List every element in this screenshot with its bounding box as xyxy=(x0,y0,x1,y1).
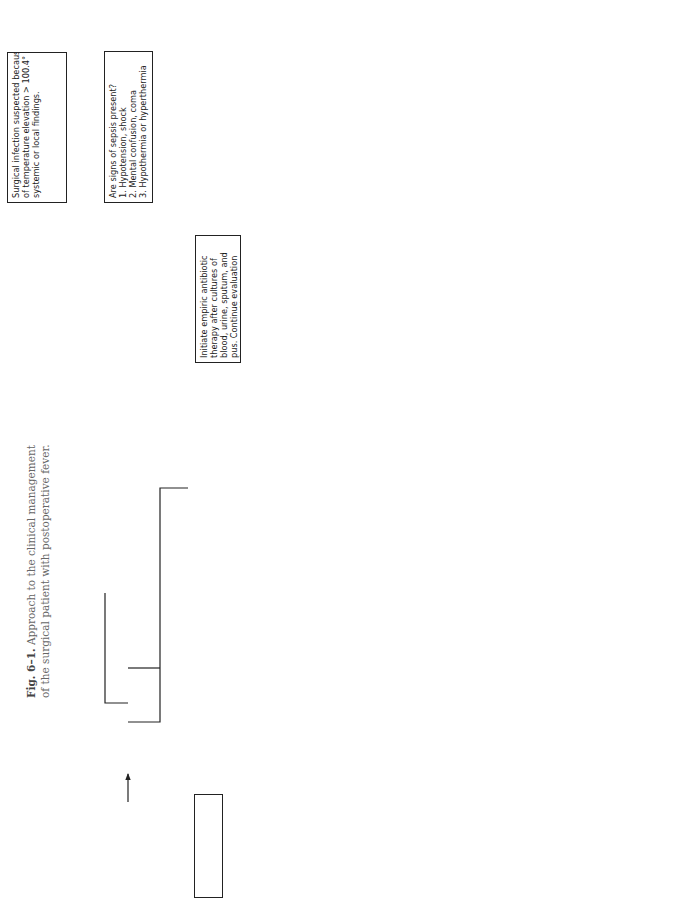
node-sepsis: Are signs of sepsis present? 1. Hypotens… xyxy=(104,51,153,203)
node-postop-question xyxy=(194,794,223,898)
figure-number: Fig. 6–1. xyxy=(25,648,37,698)
figure-caption: Fig. 6–1. Approach to the clinical manag… xyxy=(24,444,52,698)
connector-lines xyxy=(0,0,677,898)
node-empiric-antibiotic: Initiate empiric antibiotic therapy afte… xyxy=(195,235,241,363)
caption-line-2: of the surgical patient with postoperati… xyxy=(39,444,51,698)
caption-line-1: Approach to the clinical management xyxy=(25,445,37,648)
flowchart-canvas: Fig. 6–1. Approach to the clinical manag… xyxy=(0,0,677,898)
node-start: Surgical infection suspected because of … xyxy=(7,52,67,203)
